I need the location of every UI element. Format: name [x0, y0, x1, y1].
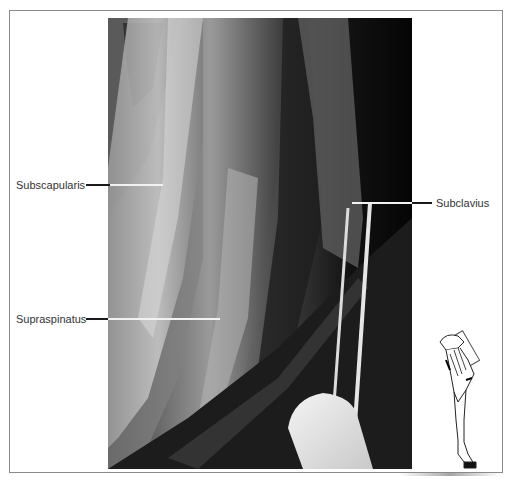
leader-line-supraspinatus: [86, 318, 220, 320]
label-supraspinatus: Supraspinatus: [16, 313, 86, 325]
leader-line-subclavius: [352, 202, 432, 204]
frame-shadow: [400, 473, 500, 476]
label-subclavius: Subclavius: [436, 197, 489, 209]
leader-line-subscapularis: [86, 184, 163, 186]
label-subscapularis: Subscapularis: [16, 179, 85, 191]
dissection-photo: [108, 18, 412, 469]
forelimb-orientation-icon: [436, 330, 494, 472]
